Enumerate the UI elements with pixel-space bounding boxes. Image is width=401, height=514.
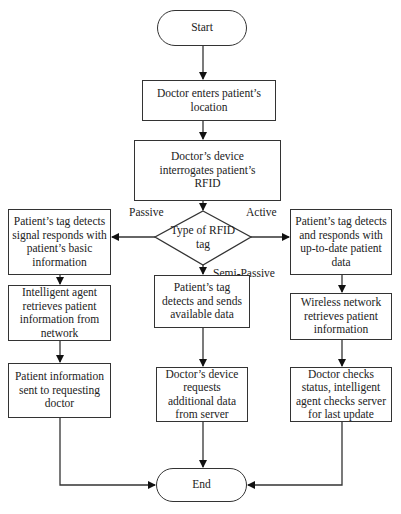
semi-passive-step-1: Patient’s tag detects and sends availabl… (154, 275, 250, 328)
active-step-2: Wireless network retrieves patient infor… (290, 293, 392, 340)
passive-step-3-text: Patient information sent to requesting d… (12, 370, 107, 411)
passive-step-1: Patient’s tag detects signal responds wi… (8, 209, 111, 275)
end-label: End (192, 478, 211, 492)
semi-passive-step-2-text: Doctor’s device requests additional data… (160, 368, 244, 422)
branch-label-active: Active (246, 206, 277, 219)
end-terminal: End (156, 468, 247, 502)
step-enter-location: Doctor enters patient’s location (142, 80, 276, 121)
active-step-2-text: Wireless network retrieves patient infor… (294, 296, 388, 337)
passive-step-1-text: Patient’s tag detects signal responds wi… (12, 215, 107, 269)
passive-step-3: Patient information sent to requesting d… (8, 363, 111, 418)
decision-label: Type of RFID tag (170, 224, 236, 251)
active-step-3: Doctor checks status, intelligent agent … (290, 367, 392, 422)
arrow-active-to-end (248, 422, 342, 485)
active-step-1-text: Patient’s tag detects and responds with … (294, 215, 388, 269)
start-label: Start (191, 21, 213, 35)
passive-step-2-text: Intelligent agent retrieves patient info… (12, 286, 107, 340)
step-interrogate-text: Doctor’s device interrogates patient’s R… (145, 150, 270, 191)
step-interrogate: Doctor’s device interrogates patient’s R… (134, 140, 281, 201)
branch-label-passive: Passive (129, 206, 164, 219)
active-step-1: Patient’s tag detects and responds with … (290, 209, 392, 275)
semi-passive-step-2: Doctor’s device requests additional data… (156, 367, 248, 422)
step-enter-location-text: Doctor enters patient’s location (146, 87, 272, 114)
semi-passive-step-1-text: Patient’s tag detects and sends availabl… (158, 281, 246, 322)
active-step-3-text: Doctor checks status, intelligent agent … (292, 368, 390, 422)
passive-step-2: Intelligent agent retrieves patient info… (8, 285, 111, 341)
start-terminal: Start (157, 10, 247, 46)
arrow-passive-to-end (60, 418, 155, 485)
